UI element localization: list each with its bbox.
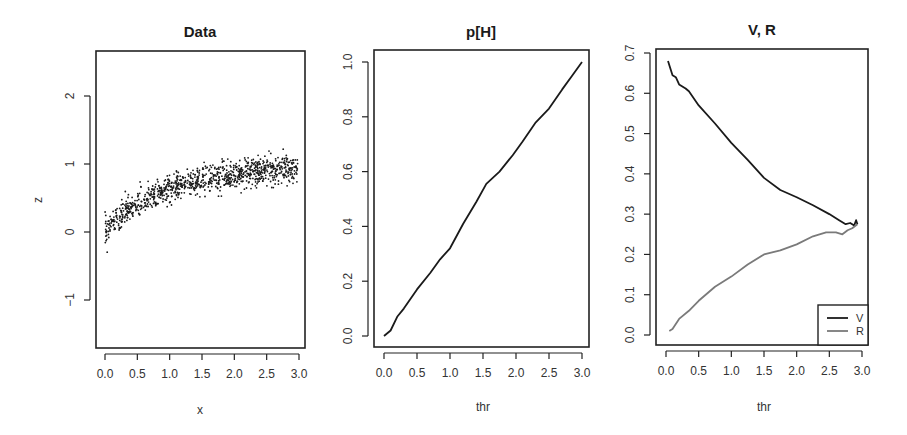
y-tick-label: 0.2: [341, 273, 355, 290]
plot-frame: [96, 51, 305, 348]
figure: Data 0.00.51.01.52.02.53.0 −1012 x z p[H…: [0, 0, 907, 435]
y-tick-label: 2: [63, 92, 77, 99]
x-tick-label: 1.5: [194, 367, 211, 381]
y-tick-label: 0.1: [623, 286, 637, 303]
scatter-points: [104, 148, 298, 253]
y-axis: 0.00.20.40.60.81.0: [341, 53, 368, 344]
line-series: [384, 62, 582, 336]
x-axis: 0.00.51.01.52.02.53.0: [658, 351, 871, 378]
series-pH: [384, 62, 582, 336]
plot-frame: [374, 50, 589, 347]
x-axis: 0.00.51.01.52.02.53.0: [376, 353, 591, 380]
x-tick-label: 2.0: [508, 366, 525, 380]
y-tick-label: 0.6: [623, 85, 637, 102]
x-tick-label: 0.0: [376, 366, 393, 380]
y-tick-label: 0.4: [623, 165, 637, 182]
line-series: [668, 61, 857, 331]
panel-title: V, R: [748, 21, 776, 38]
panel-pH-line: p[H] 0.00.51.01.52.02.53.0 0.00.20.40.60…: [341, 23, 591, 414]
y-tick-label: 0.2: [623, 246, 637, 263]
panel-VR-line: V, R 0.00.51.01.52.02.53.0 0.00.10.20.30…: [623, 21, 871, 414]
y-tick-label: 1: [63, 160, 77, 167]
y-tick-label: 1.0: [341, 53, 355, 70]
legend-label-V: V: [856, 312, 864, 324]
x-tick-label: 1.0: [723, 364, 740, 378]
y-axis: −1012: [63, 92, 90, 307]
x-tick-label: 0.5: [409, 366, 426, 380]
x-tick-label: 2.0: [788, 364, 805, 378]
x-tick-label: 1.5: [756, 364, 773, 378]
x-axis-label: x: [197, 403, 203, 417]
y-tick-label: 0.4: [341, 218, 355, 235]
panel-title: p[H]: [466, 23, 496, 40]
x-tick-label: 0.0: [97, 367, 114, 381]
x-tick-label: 1.5: [475, 366, 492, 380]
y-tick-label: 0.3: [623, 205, 637, 222]
x-tick-label: 1.0: [442, 366, 459, 380]
x-tick-label: 0.5: [690, 364, 707, 378]
x-axis: 0.00.51.01.52.02.53.0: [97, 354, 308, 381]
legend: V R: [818, 305, 868, 345]
y-axis-label: z: [31, 197, 45, 203]
x-axis-label: thr: [476, 400, 490, 414]
x-axis-label: thr: [757, 400, 771, 414]
y-tick-label: 0: [63, 228, 77, 235]
y-tick-label: 0.7: [623, 44, 637, 61]
y-tick-label: 0.0: [623, 326, 637, 343]
y-tick-label: 0.6: [341, 163, 355, 180]
panel-title: Data: [184, 23, 217, 40]
panel-data-scatter: Data 0.00.51.01.52.02.53.0 −1012 x z: [31, 23, 308, 417]
x-tick-label: 0.5: [129, 367, 146, 381]
x-tick-label: 3.0: [291, 367, 308, 381]
x-tick-label: 2.0: [226, 367, 243, 381]
x-tick-label: 2.5: [821, 364, 838, 378]
y-tick-label: 0.8: [341, 108, 355, 125]
x-tick-label: 0.0: [658, 364, 675, 378]
legend-label-R: R: [856, 325, 864, 337]
x-tick-label: 2.5: [258, 367, 275, 381]
x-tick-label: 3.0: [854, 364, 871, 378]
x-tick-label: 2.5: [541, 366, 558, 380]
y-axis: 0.00.10.20.30.40.50.60.7: [623, 44, 650, 343]
y-tick-label: 0.0: [341, 327, 355, 344]
x-tick-label: 3.0: [574, 366, 591, 380]
y-tick-label: 0.5: [623, 125, 637, 142]
series-V: [668, 61, 857, 225]
y-tick-label: −1: [63, 293, 77, 307]
plot-frame: [656, 49, 868, 345]
x-tick-label: 1.0: [161, 367, 178, 381]
